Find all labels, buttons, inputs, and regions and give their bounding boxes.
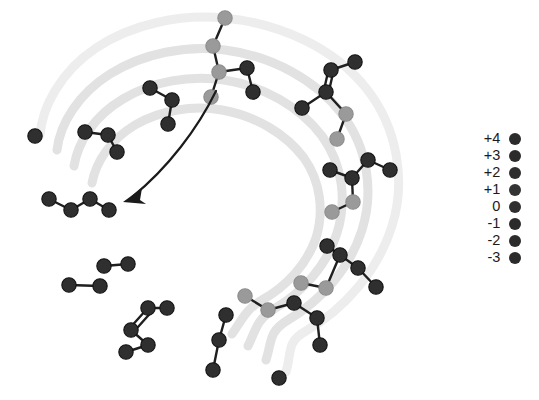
network-node — [240, 61, 254, 75]
legend-swatch-dot-icon — [509, 150, 521, 162]
network-node — [42, 192, 56, 206]
network-node — [361, 153, 375, 167]
network-node — [339, 107, 353, 121]
network-node — [161, 117, 175, 131]
network-node — [320, 239, 334, 253]
network-node — [124, 323, 138, 337]
network-node — [119, 345, 133, 359]
legend-swatch-dot-icon — [509, 218, 521, 230]
legend-swatch-dot-icon — [509, 235, 521, 247]
network-node — [313, 338, 327, 352]
network-node — [348, 55, 362, 69]
network-node — [295, 101, 309, 115]
network-node — [325, 205, 339, 219]
network-node — [62, 278, 76, 292]
legend-row: -3 — [474, 249, 521, 266]
legend-label: +2 — [474, 164, 500, 181]
legend-label: -1 — [474, 215, 500, 232]
legend-row: 0 — [474, 198, 521, 215]
network-node — [206, 39, 220, 53]
legend-row: +1 — [474, 181, 521, 198]
legend-swatch-dot-icon — [509, 184, 521, 196]
network-node — [294, 276, 308, 290]
network-node — [218, 11, 232, 25]
network-node — [160, 301, 174, 315]
network-node — [345, 171, 359, 185]
network-node — [287, 296, 301, 310]
network-node — [323, 163, 337, 177]
legend-label: +4 — [474, 130, 500, 147]
network-node — [351, 261, 365, 275]
network-node — [212, 333, 226, 347]
network-node — [238, 289, 252, 303]
legend-label: +1 — [474, 181, 500, 198]
legend-swatch-dot-icon — [509, 201, 521, 213]
network-node — [64, 203, 78, 217]
legend: +4+3+2+10-1-2-3 — [474, 130, 521, 266]
legend-swatch-dot-icon — [509, 252, 521, 264]
network-node — [272, 371, 286, 385]
network-node — [141, 338, 155, 352]
network-node — [102, 203, 116, 217]
legend-row: +3 — [474, 147, 521, 164]
network-node — [143, 81, 157, 95]
network-node — [383, 163, 397, 177]
network-node — [83, 192, 97, 206]
network-node — [101, 128, 115, 142]
network-node — [121, 257, 135, 271]
network-node — [369, 280, 383, 294]
network-node — [319, 85, 333, 99]
network-node — [28, 129, 42, 143]
network-node — [212, 65, 226, 79]
network-node — [346, 195, 360, 209]
network-node — [319, 281, 333, 295]
network-node — [333, 248, 347, 262]
legend-label: +3 — [474, 147, 500, 164]
network-node — [330, 132, 344, 146]
legend-swatch-dot-icon — [509, 133, 521, 145]
legend-row: +4 — [474, 130, 521, 147]
legend-swatch-dot-icon — [509, 167, 521, 179]
network-node — [206, 363, 220, 377]
network-node — [310, 311, 324, 325]
network-node — [261, 303, 275, 317]
figure-root: +4+3+2+10-1-2-3 — [0, 0, 539, 400]
network-node — [78, 125, 92, 139]
legend-label: -3 — [474, 249, 500, 266]
network-node — [97, 259, 111, 273]
legend-row: -1 — [474, 215, 521, 232]
legend-row: -2 — [474, 232, 521, 249]
network-node — [219, 308, 233, 322]
legend-row: +2 — [474, 164, 521, 181]
spiral-network-figure — [0, 0, 539, 400]
legend-label: -2 — [474, 232, 500, 249]
network-node — [165, 93, 179, 107]
network-node — [93, 279, 107, 293]
network-node — [110, 145, 124, 159]
legend-label: 0 — [474, 198, 500, 215]
network-node — [141, 301, 155, 315]
network-node — [246, 85, 260, 99]
arrow-head-icon — [123, 188, 146, 204]
network-node — [324, 63, 338, 77]
